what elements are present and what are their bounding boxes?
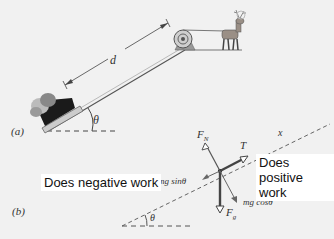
normal-force-label: FN [197,128,208,143]
negative-work-annotation: Does negative work [41,174,161,191]
angle-label-a: θ [93,113,99,128]
normal-force-subscript: N [204,135,209,143]
reindeer-icon [222,10,246,50]
incline-ramp [50,30,242,130]
tension-arrow [220,159,243,171]
positive-work-annotation: Does positive work [256,154,334,201]
positive-work-line1: Does [259,155,331,170]
distance-label: d [110,53,116,68]
mg-sin-label: mg sinθ [158,176,186,186]
diagram-canvas [0,0,334,239]
panel-a-label-text: (a) [11,125,24,137]
gravity-subscript: g [233,213,237,221]
mg-cos-arrow [220,171,235,199]
panel-a-label: (a) [11,125,24,137]
normal-force-symbol: F [197,128,204,140]
gravity-symbol: F [226,206,233,218]
positive-work-line2: positive work [259,170,331,200]
tension-label: T [240,139,246,151]
angle-label-b: θ [150,212,155,223]
rope [183,30,225,31]
distance-arrow [63,19,170,89]
pulley-icon [174,30,192,48]
panel-b-label: (b) [12,205,25,217]
angle-arc-b [145,215,147,226]
gravity-label: Fg [226,206,236,221]
sleigh-icon [30,93,83,133]
x-axis-label: x [278,127,282,138]
